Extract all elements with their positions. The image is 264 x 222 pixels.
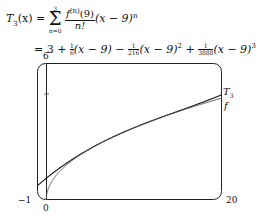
t3-label-sub: 3 <box>230 92 234 99</box>
x-min-label: −1 <box>18 195 31 205</box>
f-curve <box>46 98 221 199</box>
x-origin-label: 0 <box>43 203 49 213</box>
t3-label: T3 <box>223 86 234 99</box>
x-max-label: 20 <box>226 195 237 205</box>
t3-curve <box>38 95 222 186</box>
t3-label-text: T <box>223 86 230 97</box>
y-max-label: 6 <box>43 51 49 61</box>
plot-area <box>0 0 264 222</box>
plot-frame <box>38 64 222 200</box>
f-label: f <box>224 100 228 111</box>
